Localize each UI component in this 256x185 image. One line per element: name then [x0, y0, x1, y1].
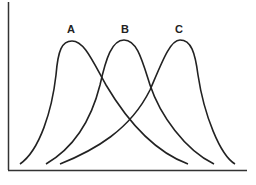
- curve-c: [60, 40, 235, 164]
- label-c: C: [175, 23, 183, 35]
- distribution-diagram: A B C: [0, 0, 256, 185]
- curve-b: [46, 40, 214, 164]
- label-a: A: [67, 23, 75, 35]
- label-b: B: [121, 23, 129, 35]
